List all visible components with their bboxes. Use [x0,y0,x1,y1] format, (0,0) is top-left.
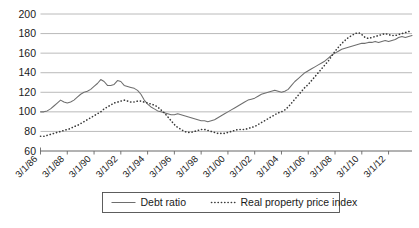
x-axis-tick-label: 3/1/00 [200,153,226,179]
legend-label-2: Real property price index [241,196,358,208]
x-axis-tick-label: 3/1/88 [40,153,66,179]
x-axis-tick-label: 3/1/90 [67,153,93,179]
y-axis-tick-label: 100 [18,105,36,117]
x-axis-tick-label: 3/1/98 [174,153,200,179]
y-axis-tick-label: 160 [18,47,36,59]
x-axis-tick-label: 3/1/12 [361,153,387,179]
y-axis-tick-label: 200 [18,8,36,20]
y-axis-tick-labels: 6080100120140160180200 [18,8,36,157]
series-line-1 [41,36,413,122]
x-axis-tick-label: 3/1/02 [227,153,253,179]
legend-label-1: Debt ratio [141,196,187,208]
gridlines-group [41,14,413,131]
y-axis-tick-label: 140 [18,66,36,78]
line-chart: 6080100120140160180200 3/1/863/1/883/1/9… [0,0,419,228]
x-axis-tick-label: 3/1/96 [147,153,173,179]
x-axis-tick-label: 3/1/86 [13,153,39,179]
chart-container: 6080100120140160180200 3/1/863/1/883/1/9… [0,0,419,228]
x-axis-tick-labels: 3/1/863/1/883/1/903/1/923/1/943/1/963/1/… [13,153,388,179]
x-axis-tick-label: 3/1/04 [254,153,280,179]
x-axis [41,148,413,155]
x-axis-tick-label: 3/1/94 [120,153,146,179]
chart-legend: Debt ratioReal property price index [103,193,358,213]
y-axis-tick-label: 120 [18,86,36,98]
x-axis-tick-label: 3/1/06 [281,153,307,179]
series-line-2 [41,31,413,137]
x-axis-tick-label: 3/1/08 [307,153,333,179]
x-axis-tick-label: 3/1/92 [93,153,119,179]
y-axis-tick-label: 180 [18,27,36,39]
x-axis-tick-label: 3/1/10 [334,153,360,179]
y-axis-tick-label: 80 [24,125,36,137]
data-series-group [41,31,413,137]
